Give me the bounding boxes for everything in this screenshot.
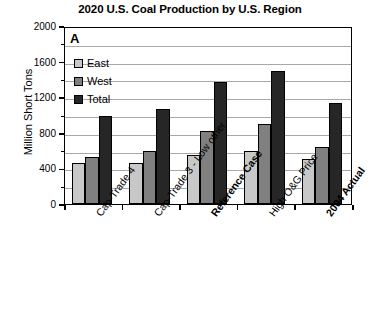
legend-label: West	[87, 76, 112, 87]
x-tick	[352, 205, 354, 210]
plot-area	[64, 27, 352, 205]
legend-label: Total	[87, 94, 110, 105]
legend-item: West	[74, 73, 144, 89]
legend-swatch	[74, 95, 83, 104]
panel-label: A	[70, 31, 79, 46]
y-tick-label: 0	[0, 200, 56, 210]
legend-swatch	[74, 77, 83, 86]
x-tick	[122, 205, 124, 210]
bar	[258, 124, 272, 204]
chart-title: 2020 U.S. Coal Production by U.S. Region	[0, 3, 380, 15]
y-tick-label: 1200	[0, 93, 56, 103]
y-tick-label: 2000	[0, 22, 56, 32]
x-tick	[237, 205, 239, 210]
y-tick-label: 800	[0, 129, 56, 139]
x-tick	[179, 205, 181, 210]
legend-label: East	[87, 58, 109, 69]
bar	[85, 157, 99, 204]
legend-swatch	[74, 59, 83, 68]
legend-item: East	[74, 55, 144, 71]
bar	[143, 151, 157, 204]
bar-group	[244, 28, 285, 204]
y-tick-label: 1600	[0, 58, 56, 68]
x-tick	[294, 205, 296, 210]
bar-group	[187, 28, 228, 204]
legend-item: Total	[74, 91, 144, 107]
bar	[271, 71, 285, 204]
y-tick-label: 400	[0, 164, 56, 174]
bar-group	[302, 28, 343, 204]
chart-figure: 2020 U.S. Coal Production by U.S. Region…	[0, 0, 380, 330]
legend: EastWestTotal	[74, 55, 144, 109]
x-tick	[64, 205, 66, 210]
bar	[72, 163, 86, 204]
